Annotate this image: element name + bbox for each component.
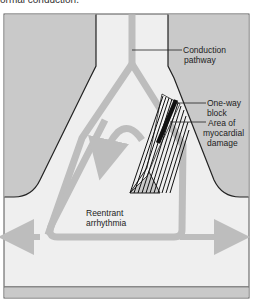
- svg-text:arrhythmia: arrhythmia: [86, 218, 126, 228]
- svg-text:myocardial: myocardial: [203, 128, 244, 138]
- myocardial-damage-label: Area of: [208, 118, 236, 128]
- reentrant-arrhythmia-label: Reentrant: [86, 208, 124, 218]
- svg-text:damage: damage: [207, 138, 238, 148]
- one-way-block-label: One-way: [207, 98, 242, 108]
- svg-text:pathway: pathway: [184, 55, 216, 65]
- conduction-pathway-label: Conduction: [183, 45, 226, 55]
- svg-text:block: block: [207, 108, 228, 118]
- reentry-diagram: Conduction pathway One-way block Area of…: [0, 0, 253, 306]
- bottom-strip: [5, 288, 249, 298]
